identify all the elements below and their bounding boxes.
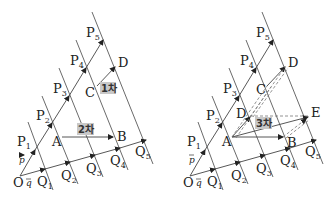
svg-text:P3: P3 [53, 81, 67, 98]
svg-text:Q1: Q1 [37, 174, 53, 191]
label-p: p [189, 155, 195, 165]
svg-text:P3: P3 [223, 81, 237, 98]
label-C: C [85, 85, 95, 100]
tag-1: 1차 [101, 82, 118, 94]
vector-CD [267, 67, 285, 86]
svg-text:P4: P4 [240, 53, 254, 70]
label-E: E [311, 105, 321, 120]
q-labels: Q1 Q2 Q3 Q4 Q5 [37, 144, 151, 191]
svg-text:P4: P4 [70, 53, 84, 70]
p-axis [190, 40, 273, 176]
svg-text:Q3: Q3 [86, 161, 102, 178]
label-C: C [256, 82, 266, 97]
label-q: q [196, 178, 202, 188]
q-axis [20, 140, 146, 176]
svg-text:Q3: Q3 [256, 161, 272, 178]
svg-text:Q4: Q4 [110, 153, 126, 170]
vector-lattice-figure: O q p P1 P2 P3 P4 P5 Q1 Q2 Q3 Q4 Q5 A B … [0, 0, 335, 206]
svg-text:Q1: Q1 [207, 174, 223, 191]
svg-text:Q4: Q4 [280, 153, 296, 170]
label-q: q [26, 178, 32, 188]
svg-text:P1: P1 [187, 134, 201, 151]
label-D: D [288, 55, 298, 70]
q-labels: Q1 Q2 Q3 Q4 Q5 [207, 144, 321, 191]
left-diagram: O q p P1 P2 P3 P4 P5 Q1 Q2 Q3 Q4 Q5 A B … [13, 12, 153, 191]
p-axis [20, 40, 103, 176]
right-diagram: O q p P1 P2 P3 P4 P5 Q1 Q2 Q3 Q4 Q5 A B … [183, 12, 323, 191]
q-axis [190, 140, 316, 176]
label-O: O [13, 175, 24, 190]
label-B: B [287, 135, 297, 150]
svg-text:Q2: Q2 [231, 168, 247, 185]
label-B: B [117, 129, 127, 144]
tag-2: 2차 [78, 123, 95, 135]
svg-text:P5: P5 [256, 25, 270, 42]
svg-text:Q5: Q5 [305, 144, 321, 161]
svg-text:P1: P1 [17, 134, 31, 151]
svg-text:Q2: Q2 [61, 168, 77, 185]
tag-3: 3차 [256, 117, 273, 129]
label-D: D [118, 55, 128, 70]
label-A: A [51, 134, 62, 149]
label-O: O [183, 175, 194, 190]
svg-text:Q5: Q5 [135, 144, 151, 161]
svg-text:P5: P5 [86, 25, 100, 42]
label-A: A [221, 134, 232, 149]
label-p: p [19, 155, 25, 165]
label-D-prime: D [236, 106, 246, 121]
